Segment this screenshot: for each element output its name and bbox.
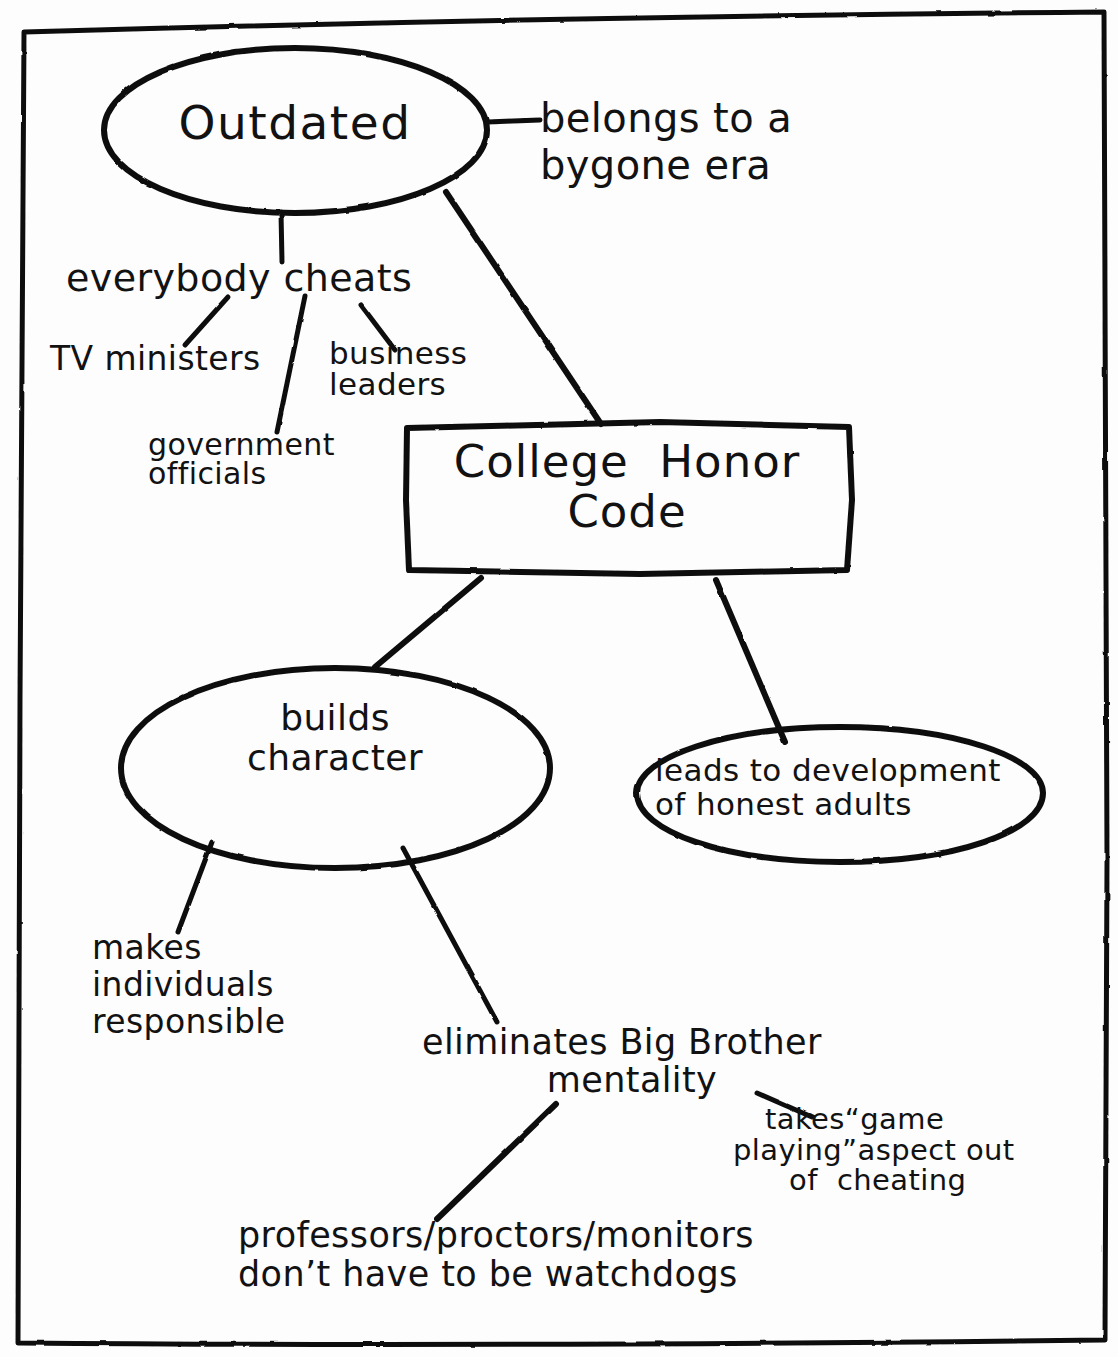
connector-everybody-tv-ministers [185,297,228,345]
label-line-1: belongs to a [540,95,792,141]
connector-eliminates-professors-proctors [437,1104,556,1219]
connector-outdated-bygone [487,120,540,122]
label-line-1: makes [92,928,202,967]
label-belongs-to-bygone-era: belongs to abygone era [540,95,960,189]
label-line-2: character [247,737,423,778]
label-professors-proctors-monitors: professors/proctors/monitorsdon’t have t… [238,1216,858,1293]
label-line-1: takes“game [733,1104,944,1135]
node-label-outdated: Outdated [130,98,460,148]
node-label-honest-adults: leads to developmentof honest adults [655,753,1027,821]
connector-outdated-everybody-cheats [281,212,282,262]
label-line-2: Code [567,485,686,538]
label-government-officials: governmentofficials [148,430,388,489]
concept-map-page: Outdated belongs to abygone era everybod… [0,0,1118,1357]
label-line-3: of cheating [733,1165,966,1196]
label-eliminates-big-brother-mentality: eliminates Big Brothermentality [422,1024,912,1100]
label-line-1: builds [280,697,390,738]
label-line-2: mentality [422,1062,912,1100]
node-label-builds-character: buildscharacter [185,698,485,777]
label-line-1: leads to development [655,752,1001,788]
label-business-leaders: businessleaders [329,338,509,400]
label-line-2: don’t have to be watchdogs [238,1254,738,1294]
label-tv-ministers: TV ministers [50,342,310,377]
connector-builds-character-eliminates-big-brother [403,848,497,1022]
label-line-2: bygone era [540,142,771,188]
label-line-1: College Honor [454,435,800,488]
label-line-2: officials [148,456,267,491]
label-line-3: responsible [92,1002,286,1041]
label-line-2: leaders [329,366,446,402]
connector-honor-code-honest-adults [716,580,785,742]
label-line-2: of honest adults [655,786,912,822]
label-everybody-cheats: everybody cheats [66,258,486,298]
label-makes-individuals-responsible: makesindividualsresponsible [92,930,362,1041]
node-label-college-honor-code: College HonorCode [412,437,842,538]
label-line-1: professors/proctors/monitors [238,1215,754,1255]
label-line-2: playing”aspect out [733,1133,1015,1167]
connector-builds-character-makes-individuals [178,842,212,932]
label-takes-game-playing-aspect: takes“gameplaying”aspect outof cheating [733,1104,1033,1196]
connector-honor-code-builds-character [375,578,481,667]
label-line-1: eliminates Big Brother [422,1022,822,1062]
label-line-2: individuals [92,965,274,1004]
